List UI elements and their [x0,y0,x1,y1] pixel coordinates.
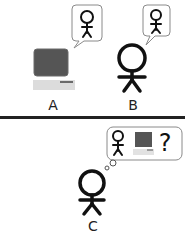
diagram-canvas [0,0,185,238]
question-mark: ? [159,131,172,155]
label-b: B [128,98,138,112]
person-b-figure [119,45,145,91]
speech-bubble-a [72,5,102,48]
computer-icon [133,132,154,155]
panel-divider [0,116,185,119]
person-c-figure [80,171,104,214]
label-c: C [88,219,98,233]
label-a: A [48,98,58,112]
speech-bubble-b [143,5,170,45]
computer-icon [33,49,75,90]
